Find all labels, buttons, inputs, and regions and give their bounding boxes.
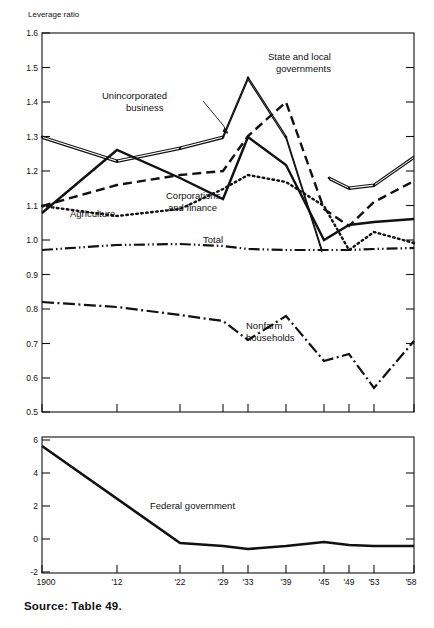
x-tick-label: '53 [368, 577, 379, 587]
x-tick-label: '29 [217, 577, 228, 587]
top-y-tick-label: 1.4 [26, 97, 38, 107]
top-y-tick-label: 0.6 [26, 373, 38, 383]
x-tick-label: '33 [242, 577, 253, 587]
bottom-y-tick-labels: 6 4 2 0 -2 [30, 435, 38, 577]
state-local-line-seg1b [42, 79, 322, 252]
bottom-y-tick-label: 2 [33, 501, 38, 511]
top-y-tick-label: 0.5 [26, 407, 38, 417]
top-y-tick-label: 1.2 [26, 166, 38, 176]
x-tick-label: '12 [111, 577, 122, 587]
x-axis-tick-labels: 1900 '12 '22 '29 '33 '39 '45 '49 '53 '58 [37, 577, 417, 587]
annotation-nonfarm-households: Nonfarm households [246, 320, 295, 343]
x-tick-label: 1900 [37, 577, 56, 587]
annotation-corporations-and-finance: Corporations and finance [166, 190, 221, 213]
top-y-tick-labels: 1.6 1.5 1.4 1.3 1.2 1.1 1.0 0.9 0.8 0.7 … [26, 28, 38, 417]
source-note: Source: Table 49. [24, 600, 122, 612]
top-y-tick-label: 0.8 [26, 304, 38, 314]
bottom-y-tick-label: 4 [33, 468, 38, 478]
top-x-ticks [42, 404, 414, 412]
state-local-line-seg2 [329, 156, 414, 187]
annotation-text: Agriculture [70, 208, 115, 219]
series-total [42, 244, 414, 250]
top-y-tick-label: 1.0 [26, 235, 38, 245]
bottom-y-tick-label: 6 [33, 435, 38, 445]
top-y-tick-label: 1.1 [26, 201, 38, 211]
annotation-federal-government: Federal government [150, 500, 235, 511]
annotation-line-1: Unincorporated [102, 90, 167, 101]
top-y-ticks [42, 33, 50, 412]
annotation-line-2: business [126, 102, 164, 113]
top-plot-frame [42, 33, 414, 412]
top-y-tick-label: 0.9 [26, 270, 38, 280]
series-nonfarm-households [42, 302, 414, 388]
annotation-state-and-local-governments: State and local governments [268, 51, 331, 74]
annotation-text: Total [203, 234, 223, 245]
annotation-line-2: and finance [168, 202, 217, 213]
bottom-y-tick-label: 0 [33, 534, 38, 544]
top-y-ticks-right [406, 68, 414, 379]
series-federal-government [42, 446, 414, 549]
bottom-x-ticks [42, 565, 414, 573]
top-y-tick-label: 1.5 [26, 63, 38, 73]
top-y-tick-label: 1.3 [26, 132, 38, 142]
top-y-tick-label: 1.6 [26, 28, 38, 38]
annotation-total: Total [203, 234, 223, 245]
x-tick-label: '45 [318, 577, 329, 587]
bottom-panel: 6 4 2 0 -2 1900 '12 '22 '29 '33 '39 ' [30, 435, 416, 587]
annotation-text: Federal government [150, 500, 235, 511]
x-tick-label: '49 [343, 577, 354, 587]
annotation-line-1: Nonfarm [246, 320, 283, 331]
x-tick-label: '58 [405, 577, 416, 587]
annotation-line-1: Corporations [166, 190, 221, 201]
state-local-line-seg1 [42, 77, 322, 250]
annotation-line-2: governments [276, 63, 331, 74]
annotation-agriculture: Agriculture [70, 208, 115, 219]
annotation-line-2: households [246, 332, 295, 343]
top-panel: Leverage ratio 1.6 1.5 1.4 1.3 1.2 1.1 1… [26, 10, 414, 417]
x-tick-label: '39 [280, 577, 291, 587]
leverage-ratio-figure: Leverage ratio 1.6 1.5 1.4 1.3 1.2 1.1 1… [0, 0, 434, 628]
x-tick-label: '22 [174, 577, 185, 587]
y-axis-title: Leverage ratio [28, 10, 80, 19]
top-y-tick-label: 0.7 [26, 339, 38, 349]
annotation-line-1: State and local [268, 51, 331, 62]
bottom-y-tick-label: -2 [30, 567, 38, 577]
annotation-unincorporated-business: Unincorporated business [102, 90, 228, 134]
